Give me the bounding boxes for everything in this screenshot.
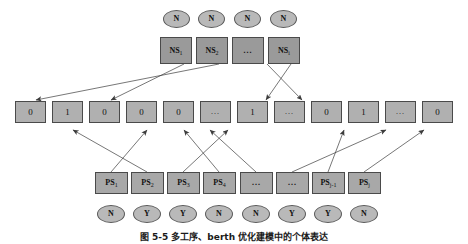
binary-box-1: 0: [15, 101, 46, 123]
bottom-state-label-2: Y: [144, 210, 150, 218]
bottom-state-ellipse-8: N: [350, 205, 378, 223]
ns-box-3: ...: [232, 37, 264, 64]
edge-ns2-binary1: [36, 64, 219, 100]
ps-box-label-6: ...: [288, 179, 297, 187]
ps-box-label-8: PSj: [359, 179, 370, 187]
ps-box-label-1: PS1: [105, 179, 117, 187]
top-state-label-1: N: [174, 15, 180, 23]
binary-box-label-5: 0: [176, 108, 181, 117]
edge-ps5-binary6: [210, 130, 256, 172]
edge-ps1-binary4: [111, 130, 147, 172]
binary-box-label-7: 1: [250, 108, 255, 117]
binary-box-12: 0: [422, 101, 453, 123]
bottom-state-label-5: N: [253, 210, 259, 218]
ns-box-label-3: ...: [244, 47, 253, 55]
binary-box-label-11: ...: [396, 108, 405, 116]
binary-box-7: 1: [237, 101, 268, 123]
ps-box-label-7: PSj-1: [320, 179, 336, 187]
ps-box-label-5: ...: [252, 179, 261, 187]
ns-box-label-2: NS2: [205, 47, 218, 55]
ps-box-8: PSj: [348, 172, 381, 194]
figure-container: N N N N NS1 NS2 ... NSi 0 1 0 0 0: [0, 0, 468, 244]
binary-box-label-4: 0: [139, 108, 144, 117]
ps-box-2: PS2: [131, 172, 164, 194]
ps-box-4: PS4: [203, 172, 236, 194]
ps-box-label-2: PS2: [141, 179, 153, 187]
bottom-state-ellipse-2: Y: [133, 205, 161, 223]
binary-box-label-3: 0: [102, 108, 107, 117]
ps-box-label-3: PS3: [177, 179, 189, 187]
ns-box-4: NSi: [268, 37, 300, 64]
binary-box-label-2: 1: [65, 108, 70, 117]
ns-box-1: NS1: [160, 37, 192, 64]
bottom-state-ellipse-4: N: [205, 205, 233, 223]
bottom-state-label-3: Y: [180, 210, 186, 218]
ps-box-5: ...: [240, 172, 273, 194]
edge-ps8-binary12: [364, 130, 424, 172]
bottom-state-ellipse-1: N: [97, 205, 125, 223]
binary-box-label-8: ...: [285, 108, 294, 116]
edge-ps2-binary2: [73, 130, 147, 172]
bottom-state-label-8: N: [361, 210, 367, 218]
bottom-state-label-1: N: [108, 210, 114, 218]
binary-box-5: 0: [163, 101, 194, 123]
bottom-state-ellipse-3: Y: [169, 205, 197, 223]
ps-box-label-4: PS4: [213, 179, 225, 187]
bottom-state-label-6: Y: [289, 210, 295, 218]
top-state-ellipse-4: N: [270, 10, 297, 28]
ps-box-7: PSj-1: [312, 172, 345, 194]
bottom-state-ellipse-5: N: [242, 205, 270, 223]
binary-box-label-1: 0: [28, 108, 33, 117]
ns-box-2: NS2: [196, 37, 228, 64]
binary-box-label-12: 0: [435, 108, 440, 117]
top-state-ellipse-1: N: [163, 10, 190, 28]
ps-box-6: ...: [276, 172, 309, 194]
edge-ns4-binary8: [266, 64, 291, 100]
top-state-label-2: N: [209, 15, 215, 23]
top-state-ellipse-2: N: [198, 10, 225, 28]
ns-box-label-1: NS1: [169, 47, 182, 55]
edge-ps4-binary5: [184, 130, 219, 172]
edge-ps3-binary7: [183, 130, 228, 172]
binary-box-2: 1: [52, 101, 83, 123]
edge-ns3-binary9: [267, 64, 302, 100]
binary-box-label-6: ...: [211, 108, 220, 116]
binary-box-label-10: 1: [361, 108, 366, 117]
binary-box-9: 0: [311, 101, 342, 123]
binary-box-10: 1: [348, 101, 379, 123]
bottom-state-ellipse-7: Y: [314, 205, 342, 223]
figure-caption: 图 5-5 多工序、berth 优化建模中的个体表达: [0, 231, 468, 244]
binary-box-8: ...: [274, 101, 305, 123]
edge-ps6-binary11: [292, 130, 386, 172]
binary-box-4: 0: [126, 101, 157, 123]
ps-box-1: PS1: [95, 172, 128, 194]
ps-box-3: PS3: [167, 172, 200, 194]
ns-box-label-4: NSi: [278, 47, 290, 55]
binary-box-label-9: 0: [324, 108, 329, 117]
edge-ns1-binary3: [111, 64, 184, 100]
edge-ps7-binary10: [328, 130, 344, 172]
top-state-label-3: N: [245, 15, 251, 23]
bottom-state-label-7: Y: [325, 210, 331, 218]
binary-box-6: ...: [200, 101, 231, 123]
binary-box-11: ...: [385, 101, 416, 123]
bottom-state-ellipse-6: Y: [278, 205, 306, 223]
top-state-ellipse-3: N: [234, 10, 261, 28]
top-state-label-4: N: [281, 15, 287, 23]
bottom-state-label-4: N: [216, 210, 222, 218]
binary-box-3: 0: [89, 101, 120, 123]
